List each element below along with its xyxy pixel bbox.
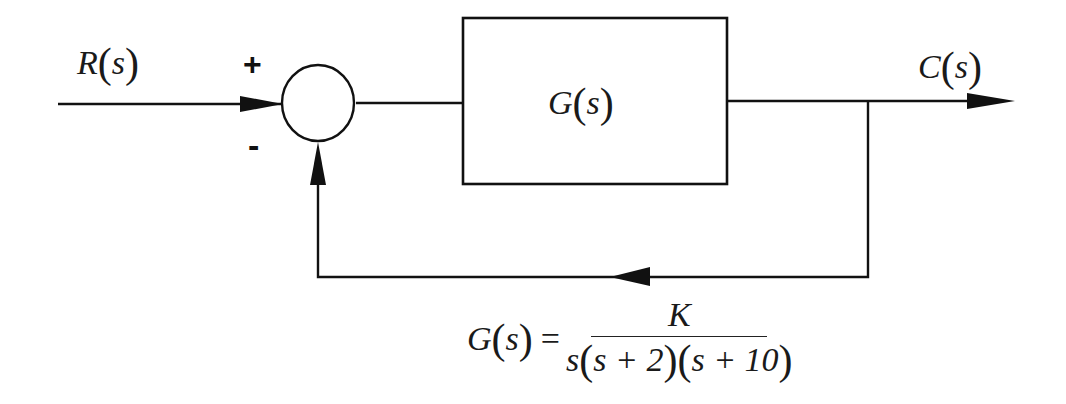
- block-label-arg: s: [587, 84, 600, 121]
- input-label: R(s): [77, 42, 139, 84]
- denominator: s(s + 2)(s + 10): [566, 339, 793, 381]
- paren-open: (: [677, 337, 691, 383]
- paren-close: ): [968, 44, 982, 90]
- plus-sign: +: [243, 48, 262, 80]
- formula-lhs-main: G: [467, 320, 492, 357]
- output-arrow-icon: [967, 93, 1015, 109]
- paren-open: (: [941, 44, 955, 90]
- fraction: K s(s + 2)(s + 10): [566, 296, 793, 381]
- paren-close: ): [519, 316, 533, 362]
- formula-lhs-arg: s: [506, 320, 519, 357]
- den-factor-1: s + 2: [593, 341, 663, 378]
- den-s: s: [566, 341, 579, 378]
- output-label-arg: s: [955, 48, 968, 85]
- den-factor-2: s + 10: [691, 341, 778, 378]
- paren-open: (: [492, 316, 506, 362]
- summing-junction: [282, 65, 354, 141]
- numerator: K: [668, 296, 691, 334]
- feedback-arrow-icon: [610, 267, 650, 286]
- paren-open: (: [579, 337, 593, 383]
- paren-close: ): [125, 40, 139, 86]
- paren-close: ): [600, 80, 614, 126]
- formula-lhs: G(s): [467, 315, 533, 363]
- forward-block-label: G(s): [548, 82, 614, 124]
- output-label: C(s): [918, 46, 982, 88]
- paren-open: (: [98, 40, 112, 86]
- paren-close: ): [779, 337, 793, 383]
- feedback-path: [318, 101, 868, 277]
- block-label-main: G: [548, 84, 573, 121]
- feedback-up-arrow-icon: [310, 142, 326, 185]
- paren-close: ): [663, 337, 677, 383]
- paren-open: (: [573, 80, 587, 126]
- output-label-main: C: [918, 48, 941, 85]
- minus-sign: -: [248, 128, 259, 162]
- input-label-main: R: [77, 44, 98, 81]
- input-label-arg: s: [112, 44, 125, 81]
- transfer-function-formula: G(s) = K s(s + 2)(s + 10): [467, 296, 793, 381]
- equals-sign: =: [541, 320, 560, 358]
- input-arrow-icon: [240, 96, 283, 112]
